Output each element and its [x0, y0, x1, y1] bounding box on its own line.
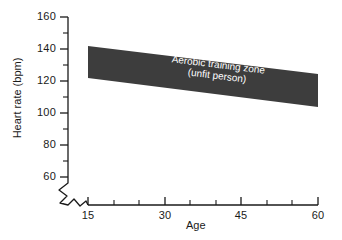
x-tick-label-15: 15 — [74, 209, 102, 221]
chart-container: Aerobic training zone (unfit person) 160… — [0, 0, 342, 240]
x-axis-major-ticks — [88, 197, 318, 205]
x-axis-minor-ticks — [114, 200, 292, 205]
chart-plot-area: Aerobic training zone (unfit person) — [0, 0, 342, 240]
y-axis-minor-ticks — [63, 33, 68, 161]
y-tick-label-100: 100 — [30, 106, 56, 118]
x-tick-label-60: 60 — [304, 209, 332, 221]
y-tick-label-120: 120 — [30, 74, 56, 86]
y-tick-label-60: 60 — [30, 170, 56, 182]
y-tick-label-140: 140 — [30, 42, 56, 54]
y-tick-label-160: 160 — [30, 10, 56, 22]
axis-break-zigzag — [59, 177, 88, 206]
y-axis-title: Heart rate (bpm) — [11, 43, 23, 153]
y-tick-label-80: 80 — [30, 138, 56, 150]
x-axis-title: Age — [186, 219, 206, 231]
x-tick-label-30: 30 — [151, 209, 179, 221]
x-tick-label-45: 45 — [227, 209, 255, 221]
